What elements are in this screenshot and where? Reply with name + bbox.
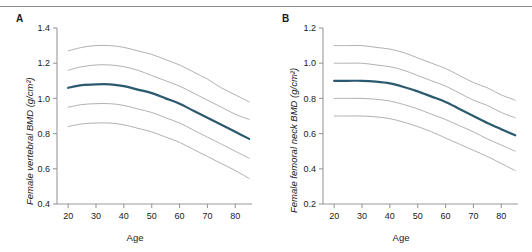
x-tick-label: 80 bbox=[496, 211, 506, 221]
y-tick-label: 1.4 bbox=[37, 23, 50, 33]
x-tick-label: 60 bbox=[175, 211, 185, 221]
y-tick-label: 1.2 bbox=[37, 58, 50, 68]
panel-b-plot-area: 0.20.40.60.81.01.220304050607080 bbox=[266, 0, 532, 252]
percentile-reference-curve bbox=[68, 65, 249, 120]
y-tick-label: 0.2 bbox=[303, 199, 316, 209]
x-tick-label: 70 bbox=[202, 211, 212, 221]
y-tick-label: 0.4 bbox=[37, 199, 50, 209]
panel-b: B Female femoral neck BMD (g/cm²) Age 0.… bbox=[266, 0, 532, 252]
y-tick-label: 1.0 bbox=[303, 58, 316, 68]
median-curve bbox=[68, 84, 249, 139]
percentile-reference-curve bbox=[334, 63, 515, 118]
x-tick-label: 60 bbox=[441, 211, 451, 221]
y-tick-label: 0.8 bbox=[303, 94, 316, 104]
y-tick-label: 0.4 bbox=[303, 164, 316, 174]
y-tick-label: 0.6 bbox=[37, 164, 50, 174]
median-curve bbox=[334, 81, 515, 136]
x-tick-label: 80 bbox=[230, 211, 240, 221]
percentile-reference-curve bbox=[68, 45, 249, 102]
x-tick-label: 50 bbox=[147, 211, 157, 221]
panel-a: A Female vertebral BMD (g/cm²) Age 0.40.… bbox=[0, 0, 266, 252]
x-tick-label: 20 bbox=[329, 211, 339, 221]
y-tick-label: 0.8 bbox=[37, 129, 50, 139]
y-tick-label: 1.2 bbox=[303, 23, 316, 33]
x-tick-label: 40 bbox=[385, 211, 395, 221]
figure-bmd-reference-curves: A Female vertebral BMD (g/cm²) Age 0.40.… bbox=[0, 0, 532, 252]
percentile-reference-curve bbox=[68, 123, 249, 179]
y-tick-label: 1.0 bbox=[37, 94, 50, 104]
panel-a-plot-area: 0.40.60.81.01.21.420304050607080 bbox=[0, 0, 266, 252]
x-tick-label: 20 bbox=[63, 211, 73, 221]
percentile-reference-curve bbox=[68, 104, 249, 159]
x-tick-label: 50 bbox=[413, 211, 423, 221]
percentile-reference-curve bbox=[334, 45, 515, 100]
x-tick-label: 30 bbox=[91, 211, 101, 221]
y-tick-label: 0.6 bbox=[303, 129, 316, 139]
percentile-reference-curve bbox=[334, 98, 515, 151]
x-tick-label: 30 bbox=[357, 211, 367, 221]
x-tick-label: 40 bbox=[119, 211, 129, 221]
x-tick-label: 70 bbox=[468, 211, 478, 221]
